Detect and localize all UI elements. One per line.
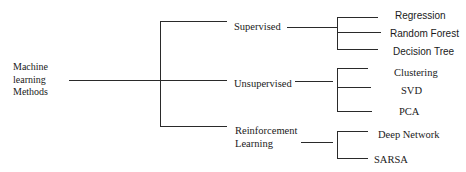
root-label-line-1: Machine <box>13 61 48 74</box>
leaf-pca: PCA <box>399 106 419 118</box>
leaf-deep-network: Deep Network <box>378 129 440 141</box>
leaf-svd: SVD <box>401 85 422 97</box>
category-reinforcement-line-2: Learning <box>235 137 297 150</box>
leaf-sarsa: SARSA <box>374 154 408 166</box>
root-label-line-3: Methods <box>13 86 48 99</box>
connector-lines <box>0 0 466 172</box>
root-node-label: Machine learning Methods <box>13 61 48 99</box>
leaf-regression: Regression <box>395 10 446 22</box>
root-label-line-2: learning <box>13 74 48 87</box>
leaf-decision-tree: Decision Tree <box>393 46 454 58</box>
leaf-random-forest: Random Forest <box>390 28 459 40</box>
leaf-clustering: Clustering <box>394 67 438 79</box>
category-unsupervised: Unsupervised <box>234 78 292 90</box>
category-reinforcement: Reinforcement Learning <box>235 124 297 150</box>
ml-methods-tree-diagram: Machine learning Methods Supervised Unsu… <box>0 0 466 172</box>
category-reinforcement-line-1: Reinforcement <box>235 124 297 137</box>
category-supervised: Supervised <box>234 21 281 33</box>
